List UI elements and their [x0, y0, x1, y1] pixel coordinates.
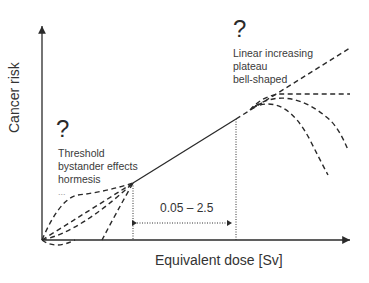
low-dose-label-2: bystander effects [58, 160, 138, 173]
high-dose-label-1: Linear increasing [233, 47, 313, 60]
bell-curve-1 [255, 98, 348, 150]
high-dose-question-mark: ? [233, 15, 246, 43]
low-dose-label-3: hormesis [58, 173, 101, 186]
high-dose-label-3: bell-shaped [233, 73, 287, 86]
high-dose-label-2: plateau [233, 60, 267, 73]
low-dose-label-1: Threshold [58, 147, 105, 160]
x-axis-label: Equivalent dose [Sv] [155, 252, 283, 268]
low-dose-ellipsis: ... [58, 186, 66, 199]
linear-segment [133, 119, 236, 183]
dose-range-label: 0.05 – 2.5 [160, 201, 213, 215]
y-axis-label: Cancer risk [6, 62, 22, 133]
concave-curve [42, 183, 133, 240]
bell-curve-2 [252, 104, 328, 175]
low-dose-question-mark: ? [56, 115, 69, 143]
